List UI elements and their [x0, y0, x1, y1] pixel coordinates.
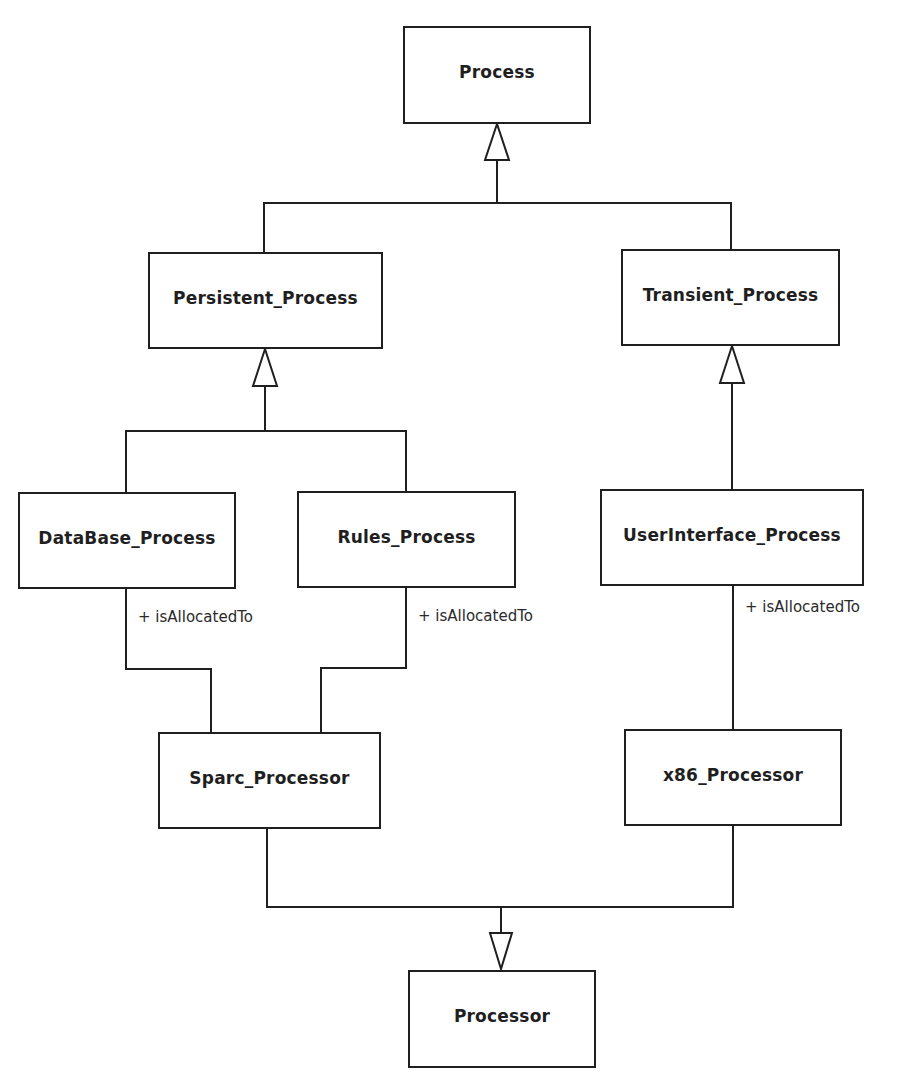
generalization-arrow-icon: [720, 346, 744, 383]
class-sparc-processor[interactable]: Sparc_Processor: [158, 732, 381, 829]
gen-line-process-bar: [264, 203, 731, 252]
gen-line-persistent-bar: [126, 431, 406, 492]
generalization-arrow-icon: [253, 349, 277, 386]
generalization-arrow-icon: [490, 933, 512, 969]
class-x86-processor[interactable]: x86_Processor: [624, 729, 842, 826]
assoc-line-rules-sparc: [321, 587, 406, 732]
class-transient-process[interactable]: Transient_Process: [621, 249, 840, 346]
role-label-database-sparc: + isAllocatedTo: [138, 608, 253, 626]
class-name: Process: [459, 62, 535, 82]
class-process[interactable]: Process: [403, 26, 591, 124]
generalization-arrow-icon: [485, 124, 509, 160]
class-name: DataBase_Process: [38, 528, 215, 548]
class-name: Rules_Process: [337, 527, 475, 547]
class-name: Sparc_Processor: [189, 768, 349, 788]
class-name: Processor: [454, 1006, 550, 1026]
role-label-rules-sparc: + isAllocatedTo: [418, 607, 533, 625]
class-userinterface-process[interactable]: UserInterface_Process: [600, 489, 864, 586]
class-database-process[interactable]: DataBase_Process: [18, 492, 236, 589]
class-rules-process[interactable]: Rules_Process: [297, 491, 516, 588]
class-name: x86_Processor: [663, 765, 803, 785]
class-name: Persistent_Process: [173, 288, 358, 308]
class-processor[interactable]: Processor: [408, 970, 596, 1068]
gen-line-processor-bar: [267, 825, 733, 907]
class-name: Transient_Process: [643, 285, 819, 305]
class-name: UserInterface_Process: [623, 525, 841, 545]
class-persistent-process[interactable]: Persistent_Process: [148, 252, 383, 349]
role-label-ui-x86: + isAllocatedTo: [745, 598, 860, 616]
